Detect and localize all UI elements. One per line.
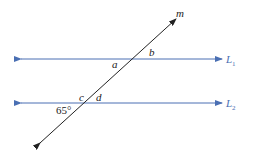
parallel-lines-diagram: m L 1 L 2 b a c d 65° <box>0 0 260 153</box>
angle-label-b: b <box>149 46 155 58</box>
angle-label-d: d <box>96 91 102 103</box>
label-l2-subscript: 2 <box>232 104 236 112</box>
angle-label-c: c <box>79 91 84 103</box>
label-m: m <box>176 7 184 19</box>
label-l1-subscript: 1 <box>232 60 236 68</box>
angle-label-a: a <box>112 58 118 70</box>
transversal-m <box>40 19 176 143</box>
angle-label-65: 65° <box>56 104 71 116</box>
